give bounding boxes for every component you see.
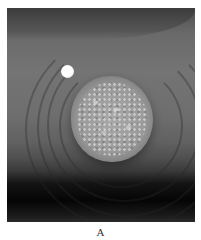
lesion-surface-texture	[77, 82, 147, 156]
lesion-photograph	[7, 8, 195, 222]
white-circular-marker	[61, 65, 74, 78]
panel-label: A	[0, 226, 201, 238]
skin-lesion	[71, 76, 153, 162]
